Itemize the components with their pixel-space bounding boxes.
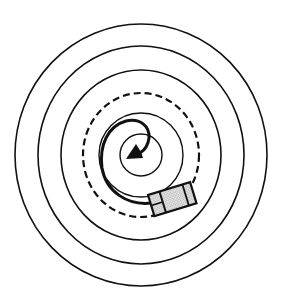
diagram-canvas [0, 0, 281, 303]
spiral-coverage-diagram [0, 0, 281, 303]
robot-outline [148, 182, 197, 216]
spiral-path [101, 120, 152, 203]
robot-body [148, 182, 197, 216]
arrowhead-icon [126, 144, 143, 159]
